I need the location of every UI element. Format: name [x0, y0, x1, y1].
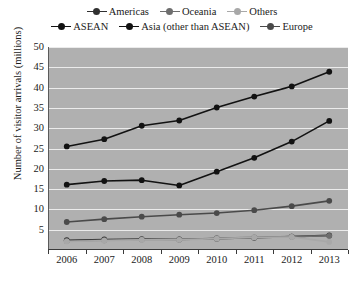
- series-lines: [48, 47, 348, 250]
- legend-marker-icon: [227, 7, 247, 16]
- x-tick-label: 2010: [197, 254, 237, 266]
- y-tick-label: 10: [22, 204, 44, 215]
- legend-row-2: ASEANAsia (other than ASEAN)Europe: [0, 19, 364, 34]
- data-point: [326, 198, 332, 204]
- legend-label: ASEAN: [73, 21, 108, 32]
- legend-label: Europe: [282, 21, 312, 32]
- data-point: [289, 203, 295, 209]
- y-tick-label: 35: [22, 103, 44, 114]
- legend-item-europe[interactable]: Europe: [260, 21, 312, 32]
- series-europe: [64, 198, 332, 225]
- series-line: [67, 121, 330, 186]
- data-point: [251, 94, 257, 100]
- data-point: [289, 139, 295, 145]
- x-tick-label: 2006: [47, 254, 87, 266]
- data-point: [176, 118, 182, 124]
- plot-area: [48, 47, 348, 250]
- data-point: [289, 234, 295, 240]
- data-point: [64, 182, 70, 188]
- legend-item-oceania[interactable]: Oceania: [160, 6, 216, 17]
- data-point: [251, 235, 257, 241]
- data-point: [326, 233, 332, 239]
- x-tick-label: 2009: [159, 254, 199, 266]
- y-axis-title: Number of visitor arrivals (millions): [12, 0, 23, 209]
- data-point: [251, 207, 257, 213]
- y-tick-label: 15: [22, 184, 44, 195]
- x-tick-label: 2012: [272, 254, 312, 266]
- data-point: [64, 144, 70, 150]
- y-tick-label: 20: [22, 164, 44, 175]
- legend-marker-icon: [87, 7, 107, 16]
- data-point: [101, 216, 107, 222]
- data-point: [101, 178, 107, 184]
- legend-label: Oceania: [182, 6, 216, 17]
- data-point: [214, 105, 220, 111]
- data-point: [251, 155, 257, 161]
- legend-marker-icon: [260, 22, 280, 31]
- legend-marker-icon: [51, 22, 71, 31]
- legend-item-asean[interactable]: ASEAN: [51, 21, 108, 32]
- data-point: [139, 123, 145, 129]
- data-point: [326, 69, 332, 75]
- legend-item-americas[interactable]: Americas: [87, 6, 149, 17]
- legend-label: Asia (other than ASEAN): [141, 21, 249, 32]
- legend-item-others[interactable]: Others: [227, 6, 277, 17]
- x-tick-label: 2013: [309, 254, 349, 266]
- y-axis-labels: 5101520253035404550: [22, 47, 44, 250]
- legend-label: Americas: [109, 6, 149, 17]
- data-point: [64, 219, 70, 225]
- data-point: [139, 177, 145, 183]
- data-point: [64, 239, 70, 245]
- data-point: [214, 236, 220, 242]
- series-line: [67, 72, 330, 147]
- legend-marker-icon: [160, 7, 180, 16]
- data-point: [101, 136, 107, 142]
- data-point: [214, 210, 220, 216]
- y-tick-label: 30: [22, 123, 44, 134]
- data-point: [326, 239, 332, 245]
- x-tick-label: 2007: [84, 254, 124, 266]
- legend-item-asia-other-than-asean[interactable]: Asia (other than ASEAN): [119, 21, 249, 32]
- series-asia-other-than-asean: [64, 69, 332, 150]
- x-tick-label: 2008: [122, 254, 162, 266]
- x-axis-labels: 20062007200820092010201120122013: [48, 254, 348, 270]
- data-point: [214, 169, 220, 175]
- series-others: [64, 234, 332, 245]
- data-point: [101, 238, 107, 244]
- y-tick-label: 50: [22, 42, 44, 53]
- y-tick-label: 45: [22, 62, 44, 73]
- y-tick-label: 25: [22, 144, 44, 155]
- legend-row-1: AmericasOceaniaOthers: [0, 4, 364, 19]
- x-tick-label: 2011: [234, 254, 274, 266]
- data-point: [176, 212, 182, 218]
- data-point: [139, 214, 145, 220]
- data-point: [176, 183, 182, 189]
- series-asean: [64, 118, 332, 188]
- data-point: [326, 118, 332, 124]
- data-point: [176, 237, 182, 243]
- data-point: [139, 237, 145, 243]
- legend-marker-icon: [119, 22, 139, 31]
- y-tick-label: 5: [22, 225, 44, 236]
- y-tick-label: 40: [22, 83, 44, 94]
- data-point: [289, 83, 295, 89]
- legend-label: Others: [249, 6, 277, 17]
- chart-legend: AmericasOceaniaOthers ASEANAsia (other t…: [0, 4, 364, 34]
